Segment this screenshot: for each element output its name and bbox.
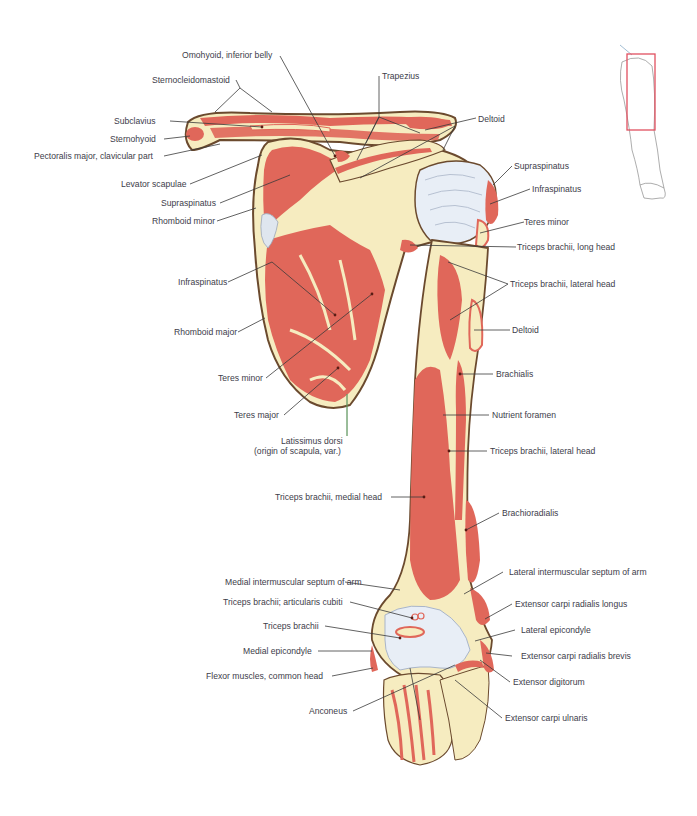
anatomy-illustration: [0, 0, 697, 816]
label-teres-minor-right: Teres minor: [524, 217, 569, 227]
label-subclavius: Subclavius: [114, 116, 156, 126]
label-latissimus-dorsi-note: (origin of scapula, var.): [254, 446, 341, 456]
label-supraspinatus-right: Supraspinatus: [514, 161, 569, 171]
label-anconeus: Anconeus: [309, 706, 347, 716]
label-rhomboid-minor: Rhomboid minor: [152, 216, 215, 226]
orientation-inset: [620, 45, 665, 199]
label-supraspinatus-left: Supraspinatus: [161, 198, 216, 208]
orientation-box: [627, 54, 655, 130]
label-deltoid-top: Deltoid: [478, 114, 505, 124]
label-medial-intermuscular-septum: Medial intermuscular septum of arm: [225, 577, 362, 587]
label-nutrient-foramen: Nutrient foramen: [492, 410, 556, 420]
humeral-head: [415, 161, 498, 248]
label-extensor-digitorum: Extensor digitorum: [513, 677, 585, 687]
label-triceps-lateral-head-2: Triceps brachii, lateral head: [490, 446, 595, 456]
label-ecrl: Extensor carpi radialis longus: [515, 599, 627, 609]
label-infraspinatus-right: Infraspinatus: [532, 184, 581, 194]
label-sternocleidomastoid: Sternocleidomastoid: [152, 75, 230, 85]
label-medial-epicondyle: Medial epicondyle: [243, 646, 312, 656]
label-lateral-epicondyle: Lateral epicondyle: [521, 625, 591, 635]
label-brachialis: Brachialis: [496, 369, 533, 379]
label-deltoid-arm: Deltoid: [512, 325, 539, 335]
anatomy-figure: Omohyoid, inferior belly Sternocleidomas…: [0, 0, 697, 816]
label-infraspinatus-left: Infraspinatus: [178, 277, 227, 287]
label-triceps-lateral-head-1: Triceps brachii, lateral head: [510, 279, 615, 289]
label-lateral-intermuscular-septum: Lateral intermuscular septum of arm: [509, 567, 647, 577]
label-latissimus-dorsi: Latissimus dorsi: [281, 436, 343, 446]
label-trapezius: Trapezius: [382, 71, 419, 81]
label-triceps-medial-head: Triceps brachii, medial head: [275, 492, 382, 502]
label-omohyoid: Omohyoid, inferior belly: [182, 50, 272, 60]
label-articularis-cubiti: Triceps brachii; articularis cubiti: [223, 597, 343, 607]
label-triceps-brachii: Triceps brachii: [263, 621, 319, 631]
label-brachioradialis: Brachioradialis: [502, 508, 558, 518]
label-triceps-long-head: Triceps brachii, long head: [517, 242, 615, 252]
label-levator-scapulae: Levator scapulae: [121, 179, 186, 189]
label-ecu: Extensor carpi ulnaris: [505, 713, 588, 723]
label-teres-major: Teres major: [234, 410, 279, 420]
label-ecrb: Extensor carpi radialis brevis: [521, 651, 631, 661]
label-teres-minor-left: Teres minor: [218, 373, 263, 383]
label-pectoralis-major: Pectoralis major, clavicular part: [34, 151, 153, 161]
label-rhomboid-major: Rhomboid major: [174, 327, 237, 337]
label-flexor-common-head: Flexor muscles, common head: [206, 671, 323, 681]
label-sternohyoid: Sternohyoid: [110, 134, 156, 144]
